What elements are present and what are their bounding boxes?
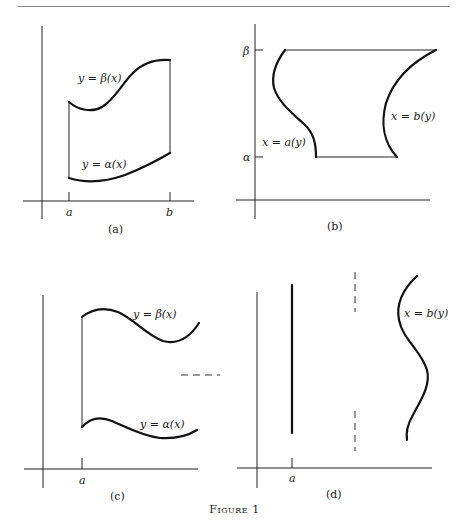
panel-a-beta-label: y = β(x) — [77, 72, 122, 85]
panel-c-tick-label-a: a — [79, 474, 86, 487]
panel-a: y = β(x) y = α(x) a b (a) — [23, 26, 194, 236]
panel-c: y = β(x) y = α(x) a (c) — [24, 295, 220, 503]
panel-a-tick-label-b: b — [166, 206, 173, 219]
panel-d: x = b(y) a (d) — [237, 272, 448, 501]
panel-a-caption: (a) — [108, 223, 123, 236]
panel-b-tick-label-beta: β — [242, 45, 249, 58]
panel-b-a-label: x = a(y) — [262, 136, 306, 149]
panel-d-b-label: x = b(y) — [404, 307, 448, 320]
figure-1: y = β(x) y = α(x) a b (a) x = a(y) x = b… — [0, 0, 469, 523]
panel-b: x = a(y) x = b(y) β α (b) — [236, 24, 436, 233]
panel-d-b-curve — [398, 276, 428, 440]
panel-c-caption: (c) — [110, 490, 125, 503]
panel-c-beta-label: y = β(x) — [132, 308, 177, 321]
panel-d-tick-label-a: a — [289, 472, 296, 485]
panel-a-tick-label-a: a — [66, 206, 73, 219]
panel-b-b-curve — [384, 50, 436, 157]
panel-d-caption: (d) — [326, 488, 342, 501]
panel-b-caption: (b) — [327, 220, 343, 233]
panel-a-alpha-label: y = α(x) — [81, 158, 127, 171]
panel-b-tick-label-alpha: α — [243, 151, 251, 164]
panel-b-b-label: x = b(y) — [391, 110, 435, 123]
figure-caption: Figure 1 — [0, 503, 469, 516]
panel-c-alpha-label: y = α(x) — [139, 418, 185, 431]
panel-a-beta-curve — [69, 60, 170, 110]
